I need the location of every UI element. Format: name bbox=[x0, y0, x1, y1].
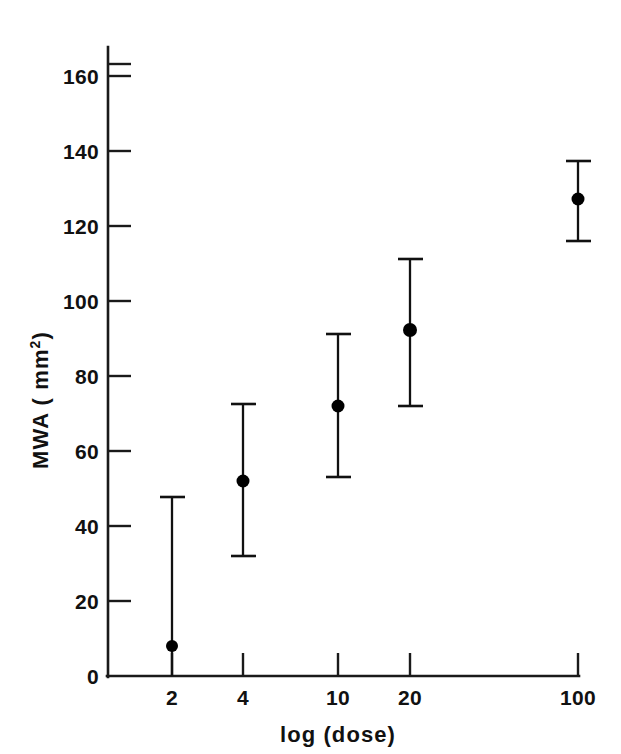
data-point-marker-100 bbox=[572, 193, 585, 206]
data-point-marker-2 bbox=[166, 640, 178, 652]
y-tick-label-80: 80 bbox=[75, 365, 99, 388]
y-tick-label-60: 60 bbox=[75, 440, 99, 463]
x-tick-marks bbox=[172, 653, 578, 676]
data-point-group-20 bbox=[398, 259, 423, 406]
data-point-marker-4 bbox=[237, 475, 250, 488]
x-tick-label-100: 100 bbox=[560, 686, 596, 709]
data-point-marker-10 bbox=[332, 400, 345, 413]
y-tick-label-160: 160 bbox=[63, 65, 99, 88]
y-axis-title-base: MWA ( mm bbox=[28, 348, 53, 468]
data-point-group-2 bbox=[160, 497, 185, 676]
y-tick-label-20: 20 bbox=[75, 590, 99, 613]
x-axis-title-text: log (dose) bbox=[280, 722, 396, 747]
y-axis-title-text: MWA ( mm2) bbox=[27, 331, 53, 469]
y-axis-title: MWA ( mm2) bbox=[27, 331, 53, 469]
y-tick-labels: 160 140 120 100 80 60 40 20 0 bbox=[63, 65, 99, 688]
y-tick-label-120: 120 bbox=[63, 215, 99, 238]
chart-figure: 160 140 120 100 80 60 40 20 0 2 4 10 20 … bbox=[0, 0, 621, 754]
data-point-group-10 bbox=[326, 334, 351, 477]
y-tick-label-0: 0 bbox=[87, 665, 99, 688]
data-point-group-100 bbox=[566, 161, 591, 241]
y-tick-marks bbox=[108, 64, 131, 601]
x-tick-label-20: 20 bbox=[398, 686, 422, 709]
x-axis-title: log (dose) bbox=[280, 722, 396, 747]
x-tick-labels: 2 4 10 20 100 bbox=[166, 686, 596, 709]
axes-group bbox=[107, 47, 579, 677]
y-axis-title-close: ) bbox=[28, 331, 53, 339]
data-point-marker-20 bbox=[403, 323, 417, 337]
y-tick-label-140: 140 bbox=[63, 140, 99, 163]
x-tick-label-4: 4 bbox=[237, 686, 249, 709]
y-tick-label-100: 100 bbox=[63, 290, 99, 313]
data-point-group-4 bbox=[231, 404, 256, 556]
y-tick-label-40: 40 bbox=[75, 515, 99, 538]
x-tick-label-10: 10 bbox=[326, 686, 350, 709]
x-tick-label-2: 2 bbox=[166, 686, 178, 709]
y-axis-title-superscript: 2 bbox=[27, 340, 43, 349]
